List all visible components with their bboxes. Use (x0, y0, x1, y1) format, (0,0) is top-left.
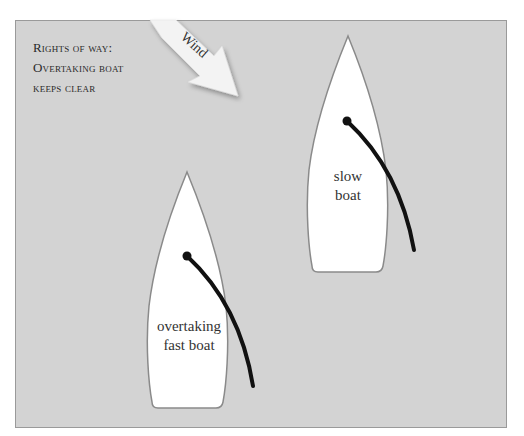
wind-arrow-icon (150, 20, 238, 96)
title-line-3: keeps clear (33, 78, 123, 98)
title-line-1: Rights of way: (33, 38, 123, 58)
fast-boat-label-line-1: overtaking (146, 317, 232, 336)
fast-boat-mast-icon (183, 252, 192, 261)
fast-boat-label: overtaking fast boat (146, 317, 232, 355)
diagram-title: Rights of way: Overtaking boat keeps cle… (33, 38, 123, 98)
slow-boat-mast-icon (343, 117, 352, 126)
slow-boat-label-line-1: slow (318, 167, 378, 186)
slow-boat-label-line-2: boat (318, 186, 378, 205)
slow-boat-label: slow boat (318, 167, 378, 205)
fast-boat-label-line-2: fast boat (146, 336, 232, 355)
title-line-2: Overtaking boat (33, 58, 123, 78)
